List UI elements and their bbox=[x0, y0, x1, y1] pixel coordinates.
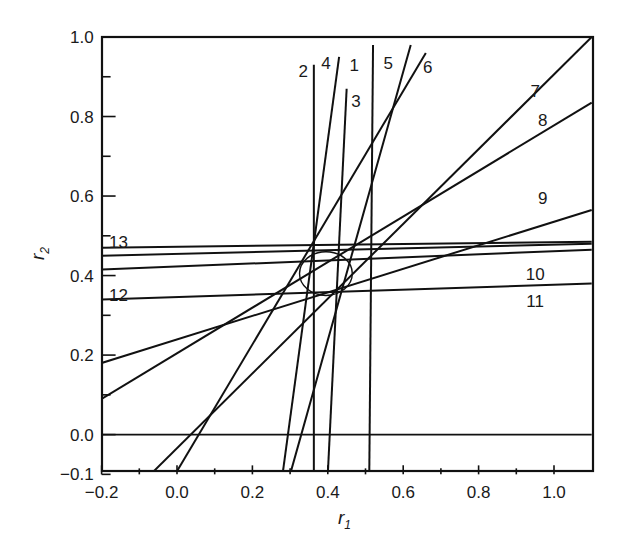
y-tick-label: −0.1 bbox=[60, 465, 94, 484]
line-label-8: 8 bbox=[538, 111, 547, 130]
line-label-10: 10 bbox=[526, 265, 545, 284]
line-label-12: 12 bbox=[109, 286, 128, 305]
x-tick-label: 0.4 bbox=[316, 483, 340, 502]
svg-text:r2: r2 bbox=[27, 247, 52, 260]
line-label-2: 2 bbox=[299, 62, 308, 81]
x-tick-label: 0.2 bbox=[241, 483, 265, 502]
x-axis-tick-labels: −0.20.00.20.40.60.81.0 bbox=[85, 483, 566, 502]
line-label-4: 4 bbox=[321, 54, 330, 73]
x-tick-label: 0.6 bbox=[391, 483, 415, 502]
line-labels: 12345678910111213 bbox=[109, 54, 547, 312]
y-tick-label: 0.8 bbox=[70, 108, 94, 127]
line-6 bbox=[175, 53, 426, 474]
line-label-5: 5 bbox=[383, 54, 392, 73]
x-tick-label: 1.0 bbox=[542, 483, 566, 502]
y-tick-label: 0.2 bbox=[70, 346, 94, 365]
y-tick-label: 0.0 bbox=[70, 426, 94, 445]
line-label-3: 3 bbox=[351, 92, 360, 111]
y-axis-title: r2 bbox=[27, 247, 52, 260]
series-lines bbox=[102, 37, 592, 474]
chart: −0.20.00.20.40.60.81.0 −0.10.00.20.40.60… bbox=[0, 0, 618, 555]
y-tick-label: 1.0 bbox=[70, 28, 94, 47]
x-tick-label: −0.2 bbox=[85, 483, 119, 502]
line-label-9: 9 bbox=[538, 189, 547, 208]
line-label-1: 1 bbox=[349, 56, 358, 75]
y-axis-tick-labels: −0.10.00.20.40.60.81.0 bbox=[60, 28, 94, 484]
y-tick-label: 0.4 bbox=[70, 267, 94, 286]
x-tick-label: 0.0 bbox=[165, 483, 189, 502]
y-tick-label: 0.6 bbox=[70, 187, 94, 206]
line-label-7: 7 bbox=[530, 82, 539, 101]
x-axis-title: r1 bbox=[338, 507, 351, 532]
line-label-11: 11 bbox=[526, 292, 544, 311]
x-axis-ticks bbox=[102, 465, 554, 474]
line-7 bbox=[151, 37, 592, 474]
line-label-6: 6 bbox=[423, 58, 432, 77]
line-label-13: 13 bbox=[109, 233, 128, 252]
x-tick-label: 0.8 bbox=[467, 483, 491, 502]
